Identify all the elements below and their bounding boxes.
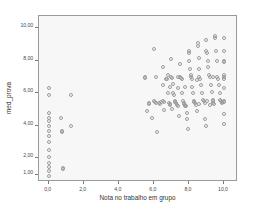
data-point bbox=[218, 91, 222, 95]
data-point bbox=[222, 100, 226, 104]
data-point bbox=[197, 56, 201, 60]
y-tick-label: 6,00 bbox=[23, 87, 33, 93]
data-point bbox=[215, 59, 219, 63]
data-point bbox=[190, 85, 194, 89]
data-point bbox=[187, 59, 191, 63]
data-point bbox=[197, 67, 201, 71]
data-point bbox=[183, 85, 187, 89]
data-point bbox=[166, 91, 170, 95]
data-point bbox=[222, 60, 226, 64]
data-point bbox=[204, 124, 208, 128]
data-point bbox=[60, 130, 64, 134]
data-point bbox=[145, 109, 149, 113]
plot-area bbox=[38, 15, 237, 181]
data-point bbox=[168, 85, 172, 89]
data-point bbox=[169, 57, 173, 61]
data-point bbox=[178, 62, 182, 66]
data-point bbox=[186, 127, 190, 131]
data-point bbox=[177, 114, 181, 118]
data-point bbox=[185, 111, 189, 115]
data-point bbox=[47, 111, 51, 115]
data-point bbox=[59, 116, 63, 120]
y-tick-label: 10,00 bbox=[21, 22, 33, 28]
data-point bbox=[47, 124, 51, 128]
data-point bbox=[205, 51, 209, 55]
scatter-plot-figure: 10,008,006,004,002,001,00 0,02,04,06,08,… bbox=[0, 0, 266, 212]
data-point bbox=[222, 49, 226, 53]
data-point bbox=[188, 67, 192, 71]
data-point bbox=[47, 86, 51, 90]
data-point bbox=[69, 124, 73, 128]
data-point bbox=[61, 167, 65, 171]
data-point bbox=[162, 100, 166, 104]
y-tick-mark bbox=[35, 92, 38, 93]
data-point bbox=[196, 44, 200, 48]
data-point bbox=[212, 102, 216, 106]
data-point bbox=[176, 104, 180, 108]
data-point bbox=[213, 36, 217, 40]
data-point bbox=[199, 83, 203, 87]
data-point bbox=[47, 134, 51, 138]
data-point bbox=[47, 140, 51, 144]
data-point bbox=[154, 75, 158, 79]
data-point bbox=[47, 165, 51, 169]
data-point bbox=[191, 91, 195, 95]
y-tick-mark bbox=[35, 174, 38, 175]
y-tick-mark bbox=[35, 60, 38, 61]
data-point bbox=[176, 86, 180, 90]
x-tick-label: 2,0 bbox=[79, 186, 86, 192]
data-point bbox=[185, 117, 189, 121]
data-point bbox=[203, 117, 207, 121]
data-point bbox=[47, 148, 51, 152]
x-tick-mark bbox=[188, 181, 189, 184]
data-point bbox=[216, 77, 220, 81]
data-point bbox=[47, 174, 51, 178]
data-point bbox=[161, 65, 165, 69]
data-point bbox=[180, 77, 184, 81]
data-point bbox=[206, 65, 210, 69]
y-tick-mark bbox=[35, 27, 38, 28]
data-point bbox=[222, 112, 226, 116]
data-point bbox=[150, 116, 154, 120]
data-point bbox=[147, 102, 151, 106]
x-tick-mark bbox=[48, 181, 49, 184]
data-point bbox=[184, 104, 188, 108]
data-point bbox=[217, 83, 221, 87]
data-point bbox=[210, 90, 214, 94]
data-point bbox=[198, 77, 202, 81]
data-point bbox=[47, 119, 51, 123]
data-point bbox=[195, 78, 199, 82]
data-point bbox=[155, 130, 159, 134]
data-point bbox=[195, 109, 199, 113]
x-tick-label: 10,0 bbox=[218, 186, 228, 192]
y-tick-mark bbox=[35, 125, 38, 126]
data-point bbox=[222, 122, 226, 126]
data-point bbox=[47, 129, 51, 133]
data-point bbox=[172, 93, 176, 97]
y-tick-label: 4,00 bbox=[23, 120, 33, 126]
data-point bbox=[69, 93, 73, 97]
data-point bbox=[180, 91, 184, 95]
data-point bbox=[47, 93, 51, 97]
x-tick-label: 8,0 bbox=[184, 186, 191, 192]
data-point bbox=[190, 77, 194, 81]
x-axis-title: Nota no trabalho em grupo bbox=[38, 194, 237, 201]
data-point bbox=[143, 76, 147, 80]
data-point bbox=[152, 47, 156, 51]
data-point bbox=[222, 86, 226, 90]
data-point bbox=[222, 36, 226, 40]
data-point bbox=[47, 155, 51, 159]
data-point bbox=[208, 103, 212, 107]
y-axis-title: med_prova bbox=[4, 15, 14, 181]
data-point bbox=[197, 102, 201, 106]
data-point bbox=[214, 49, 218, 53]
y-tick-label: 8,00 bbox=[23, 55, 33, 61]
data-point bbox=[171, 82, 175, 86]
x-tick-label: 4,0 bbox=[114, 186, 121, 192]
data-point bbox=[187, 51, 191, 55]
y-tick-label: 2,00 bbox=[23, 152, 33, 158]
x-tick-mark bbox=[223, 181, 224, 184]
data-point bbox=[170, 76, 174, 80]
x-tick-mark bbox=[153, 181, 154, 184]
x-tick-label: 6,0 bbox=[149, 186, 156, 192]
